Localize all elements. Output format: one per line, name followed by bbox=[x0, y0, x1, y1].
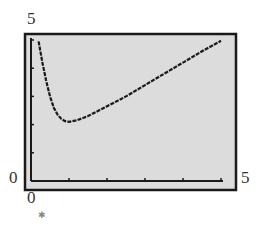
cursor-mark-icon: ✱ bbox=[38, 210, 46, 218]
y-min-label: 0 bbox=[9, 169, 18, 186]
x-min-label: 0 bbox=[27, 189, 36, 206]
y-max-label: 5 bbox=[27, 10, 36, 27]
x-max-label: 5 bbox=[241, 169, 250, 186]
graph-window bbox=[0, 0, 256, 239]
